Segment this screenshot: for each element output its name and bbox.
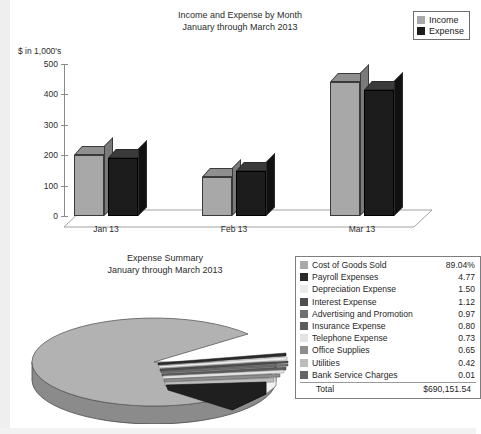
bar-chart-title-line2: January through March 2013	[110, 21, 370, 33]
row-value-depreciation-expense: 1.50	[458, 284, 475, 294]
table-row: Interest Expense 1.12	[296, 296, 480, 308]
y-tick-mark-300	[61, 125, 68, 126]
y-tick-mark-400	[61, 94, 68, 95]
x-axis-label-jan: Jan 13	[76, 224, 136, 234]
row-swatch-interest-expense	[300, 298, 308, 306]
table-row: Cost of Goods Sold 89.04%	[296, 259, 480, 271]
y-tick-label-400: 400	[24, 89, 58, 99]
bar-feb-expense-side	[266, 153, 275, 216]
bar-feb-expense	[236, 171, 266, 216]
y-tick-label-200: 200	[24, 150, 58, 160]
row-swatch-bank-service-charges	[300, 371, 308, 379]
row-swatch-utilities	[300, 359, 308, 367]
row-swatch-advertising-and-promotion	[300, 310, 308, 318]
table-total-row: Total $690,151.54	[300, 382, 476, 396]
bar-feb-income-front	[202, 177, 232, 216]
row-swatch-telephone-expense	[300, 334, 308, 342]
bar-mar-expense-side	[394, 72, 403, 216]
y-tick-label-300: 300	[24, 120, 58, 130]
pie-chart-title: Expense Summary January through March 20…	[50, 252, 280, 276]
legend-item-expense: Expense	[417, 25, 464, 36]
row-swatch-cost-of-goods-sold	[300, 261, 308, 269]
table-row: Depreciation Expense 1.50	[296, 283, 480, 295]
row-value-cost-of-goods-sold: 89.04%	[446, 260, 475, 270]
row-swatch-office-supplies	[300, 346, 308, 354]
row-value-advertising-and-promotion: 0.97	[458, 309, 475, 319]
bar-mar-expense	[364, 90, 394, 216]
row-value-telephone-expense: 0.73	[458, 333, 475, 343]
row-label-telephone-expense: Telephone Expense	[312, 333, 458, 343]
table-row: Office Supplies 0.65	[296, 344, 480, 356]
bar-jan-income	[74, 155, 104, 216]
row-value-interest-expense: 1.12	[458, 297, 475, 307]
x-axis-label-mar: Mar 13	[332, 224, 392, 234]
page-edge-bottom	[0, 428, 476, 434]
total-value: $690,151.54	[423, 384, 471, 394]
row-swatch-insurance-expense	[300, 322, 308, 330]
bar-chart-title: Income and Expense by Month January thro…	[110, 9, 370, 33]
row-swatch-payroll-expenses	[300, 273, 308, 281]
row-label-bank-service-charges: Bank Service Charges	[312, 370, 458, 380]
x-axis-label-feb: Feb 13	[204, 224, 264, 234]
y-tick-mark-500	[61, 64, 68, 65]
y-tick-mark-100	[61, 186, 68, 187]
row-value-utilities: 0.42	[458, 358, 475, 368]
report-canvas: Income and Expense by Month January thro…	[10, 0, 476, 428]
bar-jan-expense	[108, 158, 138, 216]
bar-mar-income-front	[330, 82, 360, 216]
pie-chart-graphic	[18, 306, 290, 424]
y-tick-label-0: 0	[24, 211, 58, 221]
bar-feb-expense-front	[236, 171, 266, 216]
page-edge-left	[0, 0, 10, 434]
row-value-insurance-expense: 0.80	[458, 321, 475, 331]
table-row: Payroll Expenses 4.77	[296, 271, 480, 283]
bar-jan-expense-front	[108, 158, 138, 216]
y-tick-label-500: 500	[24, 59, 58, 69]
y-tick-mark-200	[61, 155, 68, 156]
bar-chart-plot-area: 500 400 300 200 100 0	[10, 56, 476, 231]
row-label-insurance-expense: Insurance Expense	[312, 321, 458, 331]
bar-mar-income	[330, 82, 360, 216]
bar-jan-income-front	[74, 155, 104, 216]
row-label-advertising-and-promotion: Advertising and Promotion	[312, 309, 458, 319]
expense-summary-table: Cost of Goods Sold 89.04% Payroll Expens…	[295, 256, 481, 399]
pie-chart-title-line2: January through March 2013	[50, 264, 280, 276]
legend-label-income: Income	[429, 15, 459, 25]
legend-label-expense: Expense	[429, 26, 464, 36]
table-row: Utilities 0.42	[296, 357, 480, 369]
row-value-bank-service-charges: 0.01	[458, 370, 475, 380]
y-axis-line	[64, 64, 65, 216]
table-row: Bank Service Charges 0.01	[296, 369, 480, 381]
legend-swatch-expense	[417, 27, 425, 35]
row-label-cost-of-goods-sold: Cost of Goods Sold	[312, 260, 446, 270]
row-label-utilities: Utilities	[312, 358, 458, 368]
pie-chart-title-line1: Expense Summary	[50, 252, 280, 264]
bar-mar-expense-front	[364, 90, 394, 216]
bar-feb-income	[202, 177, 232, 216]
y-tick-label-100: 100	[24, 181, 58, 191]
row-label-payroll-expenses: Payroll Expenses	[312, 272, 458, 282]
row-label-interest-expense: Interest Expense	[312, 297, 458, 307]
total-label: Total	[316, 384, 423, 394]
bar-chart-title-line1: Income and Expense by Month	[110, 9, 370, 21]
row-label-office-supplies: Office Supplies	[312, 345, 458, 355]
table-row: Telephone Expense 0.73	[296, 332, 480, 344]
table-row: Insurance Expense 0.80	[296, 320, 480, 332]
legend-item-income: Income	[417, 14, 464, 25]
row-value-office-supplies: 0.65	[458, 345, 475, 355]
table-row: Advertising and Promotion 0.97	[296, 308, 480, 320]
bar-chart-panel: Income and Expense by Month January thro…	[10, 0, 476, 248]
bar-jan-expense-side	[138, 140, 147, 216]
y-axis-units-label: $ in 1,000's	[18, 46, 61, 56]
row-swatch-depreciation-expense	[300, 285, 308, 293]
row-value-payroll-expenses: 4.77	[458, 272, 475, 282]
row-label-depreciation-expense: Depreciation Expense	[312, 284, 458, 294]
legend-swatch-income	[417, 16, 425, 24]
bar-chart-legend: Income Expense	[413, 11, 470, 40]
